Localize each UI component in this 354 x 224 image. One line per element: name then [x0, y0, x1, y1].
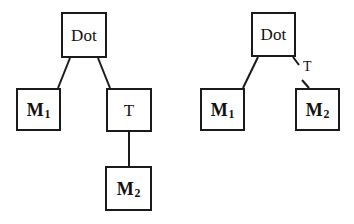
node-right-m2-base: M [306, 100, 323, 120]
node-right-dot-label: Dot [260, 26, 286, 43]
edge-label-t: T [303, 60, 312, 74]
edge-right-dot-to-m2-lower-stub [302, 80, 309, 88]
diagram-canvas: Dot M1 T M2 Dot M1 M2 T [0, 0, 354, 224]
node-left-m1-base: M [27, 100, 44, 120]
node-left-t-label: T [124, 102, 135, 119]
node-right-m1[interactable]: M1 [200, 88, 245, 131]
node-left-m1-label: M1 [27, 101, 50, 119]
node-right-m1-label: M1 [211, 101, 234, 119]
edge-right-dot-to-m1 [243, 57, 258, 88]
node-right-dot[interactable]: Dot [251, 12, 296, 57]
node-right-m2-subscript: 2 [323, 107, 329, 121]
edge-left-dot-to-m1 [58, 58, 70, 88]
node-left-m2[interactable]: M2 [105, 166, 152, 211]
node-left-t[interactable]: T [106, 88, 152, 132]
node-left-m2-subscript: 2 [134, 186, 140, 200]
edge-left-dot-to-t [98, 58, 110, 88]
node-left-m1[interactable]: M1 [16, 88, 61, 131]
node-right-m2[interactable]: M2 [295, 88, 340, 131]
node-left-m2-label: M2 [117, 180, 140, 198]
node-left-m2-base: M [117, 179, 134, 199]
node-right-m1-base: M [211, 100, 228, 120]
node-right-m2-label: M2 [306, 101, 329, 119]
node-right-m1-subscript: 1 [228, 107, 234, 121]
node-left-dot-label: Dot [71, 27, 97, 44]
edge-right-dot-to-m2-upper-stub [293, 57, 299, 65]
node-left-dot[interactable]: Dot [61, 12, 107, 58]
node-left-m1-subscript: 1 [44, 107, 50, 121]
